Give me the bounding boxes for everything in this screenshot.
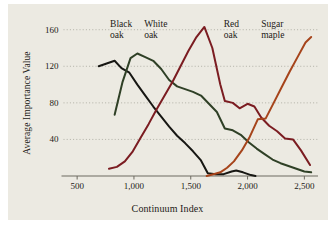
x-tick-label: 500 <box>70 181 84 191</box>
series-label-red-oak: Red oak <box>224 19 239 41</box>
series-line-red-oak <box>109 27 310 169</box>
x-tick-label: 1,000 <box>124 181 144 191</box>
series-label-black-oak: Black oak <box>110 19 132 41</box>
series-line-white-oak <box>115 53 312 172</box>
x-axis-title: Continuum Index <box>0 203 335 214</box>
x-tick-label: 2,500 <box>294 181 314 191</box>
y-tick-label: 120 <box>33 61 59 71</box>
series-line-black-oak <box>99 61 256 176</box>
y-tick-label: 80 <box>33 98 59 108</box>
series-label-white-oak: White oak <box>144 19 167 41</box>
series-label-sugar-maple: Sugar maple <box>261 19 284 41</box>
y-tick-label: 160 <box>33 25 59 35</box>
y-tick-label: 40 <box>33 134 59 144</box>
x-tick-label: 1,500 <box>181 181 201 191</box>
x-tick-label: 2,000 <box>237 181 257 191</box>
series-line-sugar-maple <box>207 37 312 176</box>
y-axis-title: Average Importance Value <box>22 38 32 168</box>
figure-container: Average Importance Value Continuum Index… <box>0 0 335 229</box>
